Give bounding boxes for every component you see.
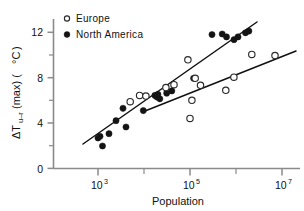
data-point [246,28,252,34]
legend: Europe North America [64,13,143,40]
scatter-plot: 12 8 4 0 10 3 10 5 10 7 Population ΔT u [0,0,304,211]
x-tick-label-1e3-base: 10 [91,179,103,191]
data-point [99,143,105,149]
y-tick-label-0: 0 [37,163,43,175]
data-point [127,99,133,105]
legend-label-north-america: North America [76,29,143,40]
y-axis-tick-labels: 12 8 4 0 [31,26,43,175]
y-axis-ticks [48,32,54,168]
data-point [97,133,103,139]
x-axis-ticks [98,169,282,176]
data-point [192,75,198,81]
legend-item-north-america[interactable]: North America [64,29,143,40]
data-point [163,84,169,90]
data-point [120,105,126,111]
fit-lines-group [83,22,296,144]
y-axis-title-degree-c: °C [10,52,22,64]
figure-container: 12 8 4 0 10 3 10 5 10 7 Population ΔT u [0,0,304,211]
y-tick-label-12: 12 [31,26,43,38]
y-axis-title-mid: (max) ( [10,74,22,109]
data-point [169,88,175,94]
y-tick-label-8: 8 [37,72,43,84]
y-axis-title-delta-t: ΔT [10,125,22,139]
x-axis-title: Population [152,195,204,207]
data-point [157,96,163,102]
data-point [189,97,195,103]
data-point [249,51,255,57]
data-point [113,118,119,124]
data-point [223,34,229,40]
data-point [123,124,129,130]
legend-label-europe: Europe [76,13,110,24]
data-point [143,93,149,99]
data-point [231,74,237,80]
x-tick-label-1e3-exponent: 3 [104,177,108,186]
series-europe-points [127,51,278,121]
axes-group [54,19,301,169]
x-tick-label-1e7-exponent: 7 [288,177,292,186]
data-point [171,82,177,88]
data-point [136,92,142,98]
y-axis-title-subscript: u–r [16,112,25,123]
x-axis-tick-labels: 10 3 10 5 10 7 [91,177,292,191]
data-point [185,57,191,63]
data-point [209,31,215,37]
data-point [223,87,229,93]
legend-item-europe[interactable]: Europe [64,13,110,24]
data-point [272,52,278,58]
data-point [235,34,241,40]
x-tick-label-1e5-base: 10 [183,179,195,191]
x-tick-label-1e5-exponent: 5 [196,177,200,186]
y-axis-title-close: ) [10,46,22,50]
data-point [140,108,146,114]
data-point [106,131,112,137]
data-point [187,115,193,121]
x-tick-label-1e7-base: 10 [275,179,287,191]
y-tick-label-4: 4 [37,117,43,129]
y-axis-title: ΔT u–r (max) ( °C ) [10,46,25,139]
fit-line-europe [145,51,296,111]
legend-marker-open-circle-icon [64,16,69,21]
legend-marker-filled-circle-icon [64,32,70,38]
data-point [197,82,203,88]
